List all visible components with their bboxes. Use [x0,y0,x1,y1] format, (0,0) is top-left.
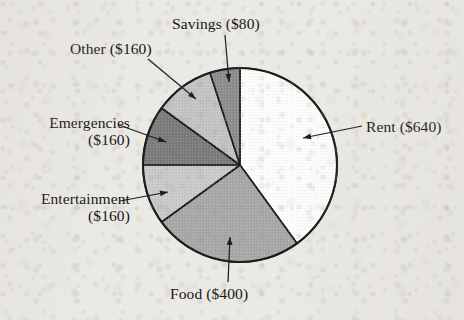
slice-label-rent: Rent ($640) [366,118,442,135]
slice-label-entertainment-line1: Entertainment [2,190,130,207]
slice-label-food-text: Food ($400) [170,285,248,302]
leader-line-other [148,59,196,99]
slice-label-savings: Savings ($80) [172,15,260,32]
pie-chart-figure: Savings ($80) Other ($160) Emergencies($… [0,0,464,320]
slice-label-food: Food ($400) [170,285,248,302]
slice-label-savings-text: Savings ($80) [172,15,260,32]
slice-label-entertainment-line2: ($160) [2,207,130,224]
slice-label-emergencies: Emergencies($160) [10,114,130,149]
slice-label-emergencies-line1: Emergencies [10,114,130,131]
slice-label-other: Other ($160) [70,40,152,57]
slice-label-other-text: Other ($160) [70,40,152,57]
slice-label-emergencies-line2: ($160) [10,131,130,148]
slice-label-entertainment: Entertainment($160) [2,190,130,225]
slice-label-rent-text: Rent ($640) [366,118,442,135]
